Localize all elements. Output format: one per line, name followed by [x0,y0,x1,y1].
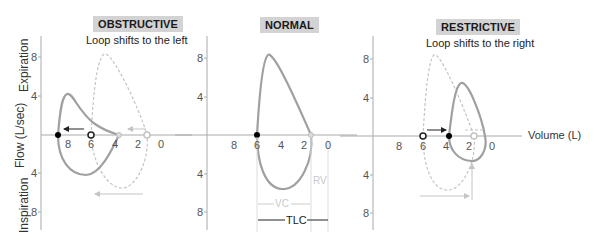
normal-y-tick: 8 [197,207,203,218]
obstructive-y-tick: 4 [31,91,37,102]
obstructive-x-tick: 2 [135,139,141,150]
normal-x-tick: 4 [278,140,284,151]
restrictive-tlc-marker [446,133,452,139]
normal-panel [175,36,357,232]
restrictive-y-tick: 8 [363,54,369,65]
obstructive-normal-rv-marker [144,132,150,138]
restrictive-y-tick: 4 [363,170,369,181]
obstructive-x-tick: 4 [112,139,118,150]
obstructive-x-tick: 6 [88,139,94,150]
normal-x-tick: 0 [325,140,331,151]
restrictive-x-tick: 8 [396,141,402,152]
obstructive-tlc-marker [55,132,61,138]
normal-x-tick: 2 [301,140,307,151]
flow-volume-diagram [0,0,594,243]
restrictive-normal-loop-dashed [423,55,474,190]
restrictive-y-tick: 8 [363,208,369,219]
restrictive-x-tick: 0 [489,141,495,152]
x-axis-title: Volume (L) [528,129,581,141]
obstructive-y-tick: 4 [31,168,37,179]
obstructive-x-tick: 0 [158,139,164,150]
obstructive-y-tick: 8 [31,52,37,63]
tlc-label: TLC [286,214,307,226]
normal-rv-marker [309,133,314,138]
restrictive-panel [340,36,522,230]
restrictive-y-tick: 4 [363,93,369,104]
obstructive-y-tick: 8 [31,207,37,218]
normal-loop [257,55,311,189]
restrictive-normal-tlc-marker [420,133,426,139]
obstructive-panel [38,36,192,230]
vc-label: VC [275,198,289,209]
restrictive-x-tick: 4 [443,141,449,152]
rv-label: RV [313,175,327,186]
restrictive-normal-rv-marker [471,133,477,139]
obstructive-rv-marker [117,133,122,138]
normal-y-tick: 4 [197,169,203,180]
normal-x-tick: 6 [254,140,260,151]
normal-y-tick: 8 [197,53,203,64]
restrictive-x-tick: 6 [420,141,426,152]
normal-x-tick: 8 [231,140,237,151]
normal-y-tick: 4 [197,92,203,103]
restrictive-x-tick: 2 [466,141,472,152]
obstructive-x-tick: 8 [65,139,71,150]
